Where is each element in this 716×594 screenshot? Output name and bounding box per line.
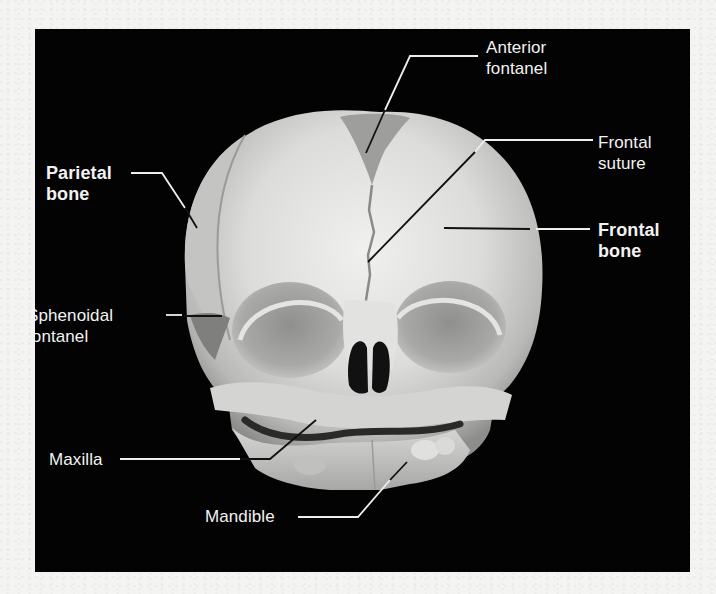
label-frontal-suture: Frontal suture [598,132,652,174]
label-frontal-bone: Frontal bone [598,220,660,262]
figure-frame: Anterior fontanel Frontal suture Parieta… [35,29,690,572]
left-orbit-shape [394,281,506,373]
label-mandible: Mandible [205,506,275,527]
label-parietal-bone: Parietal bone [46,163,112,205]
right-orbit-shape [232,282,348,378]
skull-illustration [35,29,690,572]
label-anterior-fontanel: Anterior fontanel [486,37,547,79]
label-sphenoidal-fontanel: Sphenoidal fontanel [35,305,113,347]
label-maxilla: Maxilla [49,449,103,470]
